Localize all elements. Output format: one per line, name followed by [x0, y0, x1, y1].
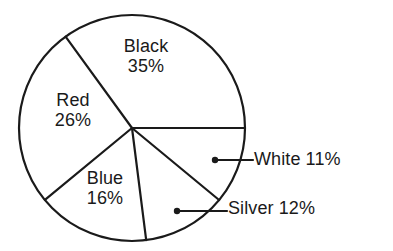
slice-callout-silver: Silver 12% — [228, 198, 315, 219]
slice-label-red-name: Red — [32, 90, 114, 110]
slice-callout-white: White 11% — [254, 149, 341, 170]
slice-label-red: Red 26% — [32, 90, 114, 130]
pie-chart: Black 35% Red 26% Blue 16% White 11% Sil… — [0, 0, 393, 251]
slice-label-red-value: 26% — [32, 110, 114, 130]
slice-label-blue-value: 16% — [64, 188, 146, 208]
slice-label-black: Black 35% — [104, 36, 188, 76]
slice-label-blue-name: Blue — [64, 168, 146, 188]
slice-label-black-name: Black — [104, 36, 188, 56]
slice-label-black-value: 35% — [104, 56, 188, 76]
slice-label-blue: Blue 16% — [64, 168, 146, 208]
